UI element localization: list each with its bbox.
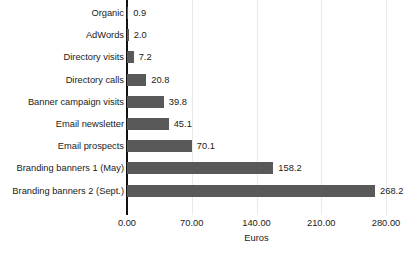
bar-value-label: 7.2 (139, 52, 152, 63)
bar[interactable] (127, 140, 192, 152)
bar-value-label: 70.1 (197, 141, 215, 152)
bar-row: Directory calls20.8 (0, 69, 414, 91)
x-axis-title: Euros (244, 233, 268, 244)
x-tick-label: 70.00 (180, 218, 203, 229)
x-tick-label: 140.00 (242, 218, 270, 229)
x-tick-label: 210.00 (307, 218, 335, 229)
bar-row: Email newsletter45.1 (0, 113, 414, 135)
x-tick-label: 280.00 (372, 218, 400, 229)
bar[interactable] (127, 185, 375, 197)
category-label: Organic (91, 8, 124, 19)
category-label: Banner campaign visits (28, 96, 124, 107)
bar-chart: Organic0.9AdWords2.0Directory visits7.2D… (0, 0, 414, 253)
bar[interactable] (127, 29, 129, 41)
bar[interactable] (127, 74, 146, 86)
bar-row: Branding banners 1 (May)158.2 (0, 157, 414, 179)
bar-value-label: 158.2 (278, 163, 301, 174)
category-label: Branding banners 1 (May) (17, 163, 125, 174)
bar-value-label: 2.0 (134, 30, 147, 41)
category-label: Directory visits (64, 52, 124, 63)
bar[interactable] (127, 7, 128, 19)
bar-value-label: 20.8 (151, 74, 169, 85)
category-label: Email newsletter (56, 119, 124, 130)
x-tick-label: 0.00 (118, 218, 136, 229)
category-label: Email prospects (58, 141, 124, 152)
bar-row: Organic0.9 (0, 2, 414, 24)
bar-row: Email prospects70.1 (0, 135, 414, 157)
bar-value-label: 0.9 (133, 8, 146, 19)
bar-value-label: 268.2 (380, 185, 403, 196)
bar-value-label: 45.1 (174, 119, 192, 130)
category-label: Branding banners 2 (Sept.) (12, 185, 124, 196)
category-label: Directory calls (66, 74, 124, 85)
bar[interactable] (127, 118, 169, 130)
bar-row: AdWords2.0 (0, 24, 414, 46)
bar[interactable] (127, 96, 164, 108)
bar-row: Branding banners 2 (Sept.)268.2 (0, 180, 414, 202)
category-label: AdWords (86, 30, 124, 41)
bar[interactable] (127, 51, 134, 63)
bar[interactable] (127, 162, 273, 174)
bar-value-label: 39.8 (169, 96, 187, 107)
bar-row: Directory visits7.2 (0, 46, 414, 68)
bar-row: Banner campaign visits39.8 (0, 91, 414, 113)
